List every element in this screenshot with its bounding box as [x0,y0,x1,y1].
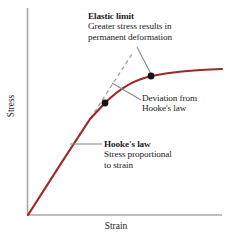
annotation-hookes-law-title: Hooke's law [104,139,172,149]
annotation-elastic-limit-title: Elastic limit [88,11,172,21]
stress-strain-diagram: Elastic limit Greater stress results in … [0,0,232,238]
leader-line-elastic-limit [137,47,151,74]
proportional-limit-point-marker [102,100,109,107]
annotation-hookes-law-line1: Stress proportional [104,149,172,159]
x-axis-label: Strain [0,221,232,231]
annotation-hookes-law: Hooke's law Stress proportional to strai… [104,139,172,170]
annotation-hookes-law-line2: to strain [104,160,172,170]
annotation-elastic-limit-line2: permanent deformation [88,32,172,42]
y-axis-label: Stress [6,71,16,141]
annotation-elastic-limit-line1: Greater stress results in [88,21,172,31]
elastic-limit-point-marker [148,73,155,80]
annotation-elastic-limit: Elastic limit Greater stress results in … [88,11,172,42]
annotation-deviation-line2: Hooke's law [142,103,197,113]
annotation-deviation: Deviation from Hooke's law [142,93,197,114]
annotation-deviation-line1: Deviation from [142,93,197,103]
